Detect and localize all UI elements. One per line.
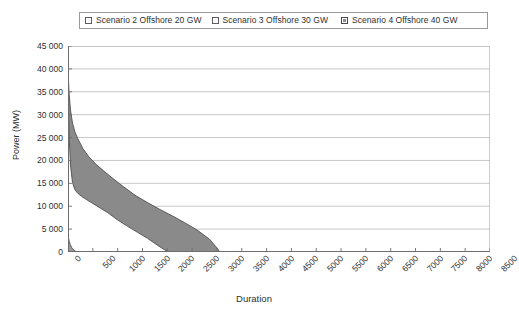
x-tick-label: 6500 — [400, 254, 420, 274]
x-tick-label: 3500 — [251, 254, 271, 274]
x-tick-label: 0 — [73, 254, 83, 264]
y-tick-label: 45 000 — [17, 42, 63, 51]
x-tick-label: 8500 — [500, 254, 519, 274]
plot-svg — [68, 46, 490, 252]
y-tick-label: 20 000 — [17, 156, 63, 165]
legend-swatch-icon-scenario-2 — [85, 17, 92, 24]
x-tick-label: 500 — [101, 254, 117, 270]
x-tick-label: 2000 — [177, 254, 197, 274]
x-axis-title: Duration — [0, 293, 508, 304]
x-tick-label: 5000 — [326, 254, 346, 274]
x-tick-label: 7000 — [425, 254, 445, 274]
x-axis-tick-labels: 0500100015002000250030003500400045005000… — [68, 254, 498, 294]
y-tick-label: 40 000 — [17, 64, 63, 73]
x-tick-label: 1500 — [152, 254, 172, 274]
y-tick-label: 0 — [17, 248, 63, 257]
x-tick-label: 4500 — [301, 254, 321, 274]
plot-area — [68, 46, 490, 252]
y-tick-label: 25 000 — [17, 133, 63, 142]
x-tick-label: 5500 — [351, 254, 371, 274]
legend-swatch-icon-scenario-4 — [341, 17, 348, 24]
legend-entry-scenario-2: Scenario 2 Offshore 20 GW — [85, 13, 202, 28]
x-tick-label: 2500 — [202, 254, 222, 274]
y-tick-label: 30 000 — [17, 110, 63, 119]
x-tick-label: 8000 — [475, 254, 495, 274]
legend-label-scenario-4: Scenario 4 Offshore 40 GW — [352, 16, 458, 25]
legend-swatch-icon-scenario-3 — [212, 17, 219, 24]
x-tick-label: 1000 — [127, 254, 147, 274]
legend-entry-scenario-4: Scenario 4 Offshore 40 GW — [341, 13, 458, 28]
y-tick-label: 5 000 — [17, 225, 63, 234]
y-tick-label: 10 000 — [17, 202, 63, 211]
y-tick-label: 35 000 — [17, 87, 63, 96]
y-tick-label: 15 000 — [17, 179, 63, 188]
x-tick-label: 6000 — [375, 254, 395, 274]
legend-label-scenario-2: Scenario 2 Offshore 20 GW — [96, 16, 202, 25]
legend-entry-scenario-3: Scenario 3 Offshore 30 GW — [212, 13, 329, 28]
x-tick-label: 4000 — [276, 254, 296, 274]
y-axis-tick-labels: 05 00010 00015 00020 00025 00030 00035 0… — [15, 46, 63, 252]
chart-legend: Scenario 2 Offshore 20 GW Scenario 3 Off… — [79, 12, 488, 29]
x-tick-label: 7500 — [450, 254, 470, 274]
legend-label-scenario-3: Scenario 3 Offshore 30 GW — [223, 16, 329, 25]
x-tick-label: 3000 — [226, 254, 246, 274]
